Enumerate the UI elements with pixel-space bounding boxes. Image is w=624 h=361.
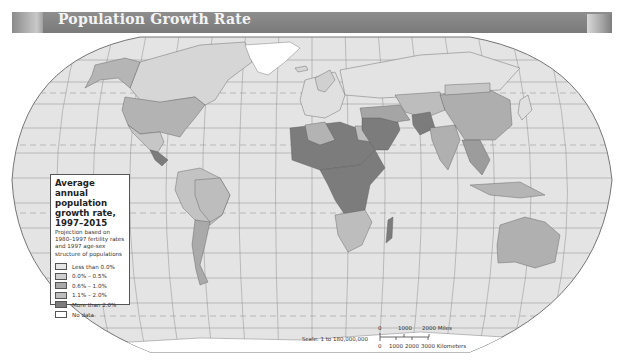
legend-label: Less than 0.0% <box>72 264 115 270</box>
scale-km-3000: 3000 Kilometers <box>421 343 466 349</box>
swatch <box>55 282 67 289</box>
scale-km-1000: 1000 <box>389 343 403 349</box>
scale-km-2000: 2000 <box>405 343 419 349</box>
legend-items: Less than 0.0% 0.0% – 0.5% 0.6% – 1.0% 1… <box>55 262 125 320</box>
legend-label: No data <box>72 312 94 318</box>
scale-miles-1000: 1000 <box>398 325 412 331</box>
legend-label: 0.6% – 1.0% <box>72 283 107 289</box>
legend-label: 0.0% – 0.5% <box>72 273 107 279</box>
legend-item-no-data: No data <box>55 310 125 320</box>
scale-miles-0: 0 <box>378 325 382 331</box>
legend-title: Average annual population growth rate, 1… <box>55 178 125 228</box>
swatch <box>55 292 67 299</box>
scale-km-0: 0 <box>378 343 382 349</box>
swatch <box>55 301 67 308</box>
swatch <box>55 263 67 270</box>
scale-miles-2000: 2000 Miles <box>422 325 452 331</box>
legend-label: 1.1% – 2.0% <box>72 292 107 298</box>
legend-item-0.6-1.0: 0.6% – 1.0% <box>55 281 125 291</box>
legend: Average annual population growth rate, 1… <box>50 174 130 305</box>
scale-bar <box>379 332 449 342</box>
legend-item-less-than-0: Less than 0.0% <box>55 262 125 272</box>
swatch <box>55 273 67 280</box>
legend-label: More than 2.0% <box>72 302 116 308</box>
legend-note: Projection based on 1980–1997 fertility … <box>55 229 125 258</box>
legend-item-more-than-2: More than 2.0% <box>55 300 125 310</box>
swatch <box>55 311 67 318</box>
legend-item-0-0.5: 0.0% – 0.5% <box>55 271 125 281</box>
scale-label: Scale: 1 to 180,000,000 <box>302 336 368 342</box>
legend-item-1.1-2.0: 1.1% – 2.0% <box>55 291 125 301</box>
